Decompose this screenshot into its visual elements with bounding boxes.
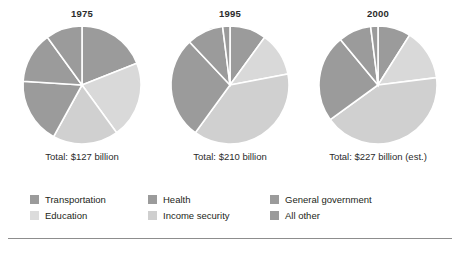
legend-item-general-government: General government bbox=[270, 192, 430, 207]
legend-swatch-icon bbox=[270, 211, 279, 220]
charts-row: 1975 Total: $127 billion 1995 Total: $21… bbox=[0, 0, 460, 182]
legend-item-label: General government bbox=[285, 195, 372, 205]
pie-chart-1995 bbox=[169, 24, 291, 146]
chart-total-label: Total: $210 billion bbox=[193, 152, 266, 162]
legend-item-education: Education bbox=[30, 208, 148, 223]
pie-chart-figure: 1975 Total: $127 billion 1995 Total: $21… bbox=[0, 0, 460, 254]
legend-swatch-icon bbox=[148, 195, 157, 204]
chart-block-2000: 2000 Total: $227 billion (est.) bbox=[304, 0, 452, 161]
chart-block-1975: 1975 Total: $127 billion bbox=[8, 0, 156, 161]
legend-item-label: All other bbox=[285, 211, 320, 221]
chart-total-label: Total: $227 billion (est.) bbox=[329, 152, 427, 162]
chart-year-label: 2000 bbox=[367, 9, 389, 19]
legend: Transportation Education Health Income s… bbox=[30, 192, 430, 223]
pie-chart-2000 bbox=[317, 24, 439, 146]
legend-item-transportation: Transportation bbox=[30, 192, 148, 207]
legend-item-all-other: All other bbox=[270, 208, 430, 223]
pie-svg-2000 bbox=[317, 24, 439, 146]
legend-item-health: Health bbox=[148, 192, 270, 207]
pie-svg-1995 bbox=[169, 24, 291, 146]
bottom-divider bbox=[8, 238, 452, 239]
pie-chart-1975 bbox=[21, 24, 143, 146]
chart-year-label: 1975 bbox=[71, 9, 93, 19]
legend-swatch-icon bbox=[30, 195, 39, 204]
chart-block-1995: 1995 Total: $210 billion bbox=[156, 0, 304, 161]
legend-item-label: Health bbox=[163, 195, 190, 205]
legend-item-label: Education bbox=[45, 211, 87, 221]
legend-swatch-icon bbox=[148, 211, 157, 220]
legend-item-label: Income security bbox=[163, 211, 230, 221]
chart-year-label: 1995 bbox=[219, 9, 241, 19]
pie-svg-1975 bbox=[21, 24, 143, 146]
chart-total-label: Total: $127 billion bbox=[45, 152, 118, 162]
legend-swatch-icon bbox=[30, 211, 39, 220]
legend-item-label: Transportation bbox=[45, 195, 106, 205]
legend-swatch-icon bbox=[270, 195, 279, 204]
legend-item-income-security: Income security bbox=[148, 208, 270, 223]
